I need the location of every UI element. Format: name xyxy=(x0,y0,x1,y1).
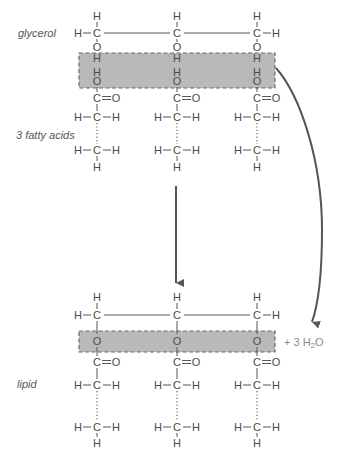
product-lipid: H C H O C O C H H C H H H xyxy=(74,291,281,449)
svg-text:H: H xyxy=(192,379,200,391)
svg-text:H: H xyxy=(93,10,101,22)
water-byproduct-label: + 3 H2O xyxy=(284,336,324,350)
svg-text:C: C xyxy=(93,421,101,433)
glycerol-label: glycerol xyxy=(18,27,56,39)
svg-text:O: O xyxy=(93,335,102,347)
svg-text:H: H xyxy=(112,379,120,391)
svg-text:O: O xyxy=(253,75,262,87)
svg-text:H: H xyxy=(112,144,120,156)
svg-text:H: H xyxy=(74,309,82,321)
svg-text:O: O xyxy=(112,356,121,368)
svg-text:C: C xyxy=(93,111,101,123)
svg-text:H: H xyxy=(112,111,120,123)
fatty-acids-label: 3 fatty acids xyxy=(16,129,75,141)
svg-text:C: C xyxy=(253,144,261,156)
svg-text:H: H xyxy=(74,144,82,156)
glycerol-esterification-diagram: H C H O H H C O H H C H O H xyxy=(0,0,339,455)
svg-text:H: H xyxy=(234,111,242,123)
svg-text:H: H xyxy=(234,421,242,433)
svg-text:H: H xyxy=(93,52,101,64)
svg-text:O: O xyxy=(192,356,201,368)
svg-text:H: H xyxy=(74,379,82,391)
reactants: H C H O H H C O H H C H O H xyxy=(74,10,281,173)
svg-text:C: C xyxy=(253,356,261,368)
svg-text:H: H xyxy=(192,144,200,156)
svg-text:C: C xyxy=(93,92,101,104)
water-release-arrow-icon xyxy=(276,68,322,322)
svg-text:H: H xyxy=(154,144,162,156)
svg-text:H: H xyxy=(173,291,181,303)
svg-text:C: C xyxy=(93,309,101,321)
lipid-label: lipid xyxy=(17,378,37,390)
svg-text:H: H xyxy=(272,379,280,391)
svg-text:O: O xyxy=(253,335,262,347)
svg-text:C: C xyxy=(173,309,181,321)
svg-text:C: C xyxy=(173,27,181,39)
svg-text:C: C xyxy=(173,356,181,368)
svg-text:C: C xyxy=(253,379,261,391)
svg-text:H: H xyxy=(154,111,162,123)
svg-text:H: H xyxy=(112,421,120,433)
svg-text:H: H xyxy=(173,161,181,173)
svg-text:H: H xyxy=(253,52,261,64)
svg-text:H: H xyxy=(234,144,242,156)
svg-text:C: C xyxy=(253,27,261,39)
svg-text:C: C xyxy=(93,27,101,39)
svg-text:H: H xyxy=(74,27,82,39)
svg-text:H: H xyxy=(192,111,200,123)
svg-text:H: H xyxy=(173,10,181,22)
svg-text:H: H xyxy=(272,421,280,433)
svg-text:O: O xyxy=(192,92,201,104)
svg-text:H: H xyxy=(93,161,101,173)
svg-text:H: H xyxy=(93,437,101,449)
svg-text:O: O xyxy=(272,356,281,368)
svg-text:H: H xyxy=(253,161,261,173)
svg-text:C: C xyxy=(173,111,181,123)
svg-text:H: H xyxy=(192,421,200,433)
svg-text:C: C xyxy=(173,144,181,156)
svg-text:H: H xyxy=(272,309,280,321)
svg-text:C: C xyxy=(93,144,101,156)
svg-text:H: H xyxy=(154,379,162,391)
svg-text:H: H xyxy=(253,10,261,22)
svg-text:H: H xyxy=(272,111,280,123)
svg-text:C: C xyxy=(253,111,261,123)
svg-text:C: C xyxy=(253,92,261,104)
svg-text:C: C xyxy=(173,421,181,433)
svg-text:O: O xyxy=(272,92,281,104)
svg-text:H: H xyxy=(93,291,101,303)
svg-text:H: H xyxy=(154,421,162,433)
svg-text:H: H xyxy=(173,437,181,449)
svg-text:H: H xyxy=(173,52,181,64)
svg-text:H: H xyxy=(234,379,242,391)
svg-text:C: C xyxy=(173,379,181,391)
svg-text:H: H xyxy=(272,144,280,156)
svg-text:H: H xyxy=(74,421,82,433)
svg-text:O: O xyxy=(93,75,102,87)
svg-text:H: H xyxy=(272,27,280,39)
svg-text:C: C xyxy=(173,92,181,104)
svg-text:C: C xyxy=(93,356,101,368)
svg-text:O: O xyxy=(112,92,121,104)
svg-text:O: O xyxy=(173,335,182,347)
svg-text:H: H xyxy=(74,111,82,123)
svg-text:O: O xyxy=(173,75,182,87)
glycerol-carbon-2: H C O H xyxy=(173,10,182,64)
svg-text:H: H xyxy=(253,437,261,449)
svg-text:C: C xyxy=(253,421,261,433)
svg-text:H: H xyxy=(253,291,261,303)
svg-text:C: C xyxy=(93,379,101,391)
svg-text:C: C xyxy=(253,309,261,321)
